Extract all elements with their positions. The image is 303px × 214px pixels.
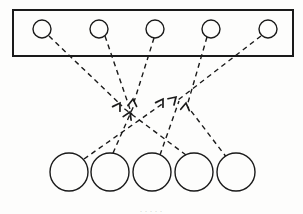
lower-layer-node — [50, 153, 88, 191]
upper-layer-node — [33, 20, 51, 38]
upper-layer-node — [259, 20, 277, 38]
lower-layer-node — [133, 153, 171, 191]
upper-layer-node — [202, 20, 220, 38]
figure-caption: . . . . . — [0, 207, 303, 213]
upper-layer-node — [90, 20, 108, 38]
lower-layer-node — [217, 153, 255, 191]
diagram-canvas — [0, 0, 303, 214]
lower-layer-node — [91, 153, 129, 191]
figure-container: . . . . . — [0, 0, 303, 214]
lower-layer-node — [175, 153, 213, 191]
upper-layer-node — [146, 20, 164, 38]
lower-layer-nodes-group — [50, 153, 255, 191]
